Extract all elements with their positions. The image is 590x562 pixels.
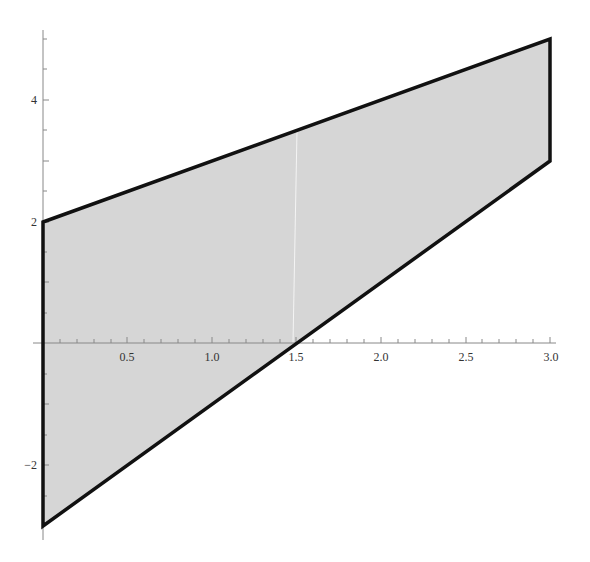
y-tick-label: 2 — [31, 215, 37, 229]
x-tick-label: 1.0 — [205, 350, 220, 364]
region-plot: 0.5 1.0 1.5 2.0 2.5 3.0 4 2 −2 — [0, 0, 590, 562]
y-tick-label: −2 — [24, 458, 37, 472]
shaded-region — [43, 39, 550, 526]
x-tick-label: 2.0 — [374, 350, 389, 364]
x-tick-label: 2.5 — [459, 350, 474, 364]
y-tick-label: 4 — [31, 93, 37, 107]
x-tick-label: 1.5 — [289, 350, 304, 364]
x-tick-label: 3.0 — [544, 350, 559, 364]
x-tick-label: 0.5 — [120, 350, 135, 364]
